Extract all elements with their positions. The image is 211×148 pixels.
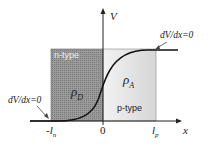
n-type-label: n-type: [54, 51, 79, 60]
v-axis-arrow-icon: [101, 8, 106, 14]
p-type-label: p-type: [117, 104, 142, 113]
x-axis-label: x: [183, 125, 188, 136]
donor-charge-label: ρD: [71, 85, 83, 102]
v-axis-label: V: [110, 11, 117, 22]
acceptor-charge-label: ρA: [123, 73, 134, 90]
x-axis-arrow-icon: [176, 119, 182, 124]
tick-minus-ln: -ln: [46, 125, 56, 139]
bottom-boundary-annotation: dV/dx=0: [8, 96, 41, 106]
tick-origin: 0: [100, 125, 106, 136]
top-boundary-annotation: dV/dx=0: [160, 31, 193, 41]
tick-lp: lp: [152, 125, 159, 139]
pn-junction-diagram: V x dV/dx=0 dV/dx=0 n-type p-type ρD ρA …: [0, 0, 211, 148]
